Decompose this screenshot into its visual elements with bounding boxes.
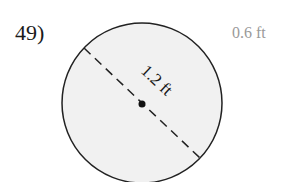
center-point bbox=[139, 101, 146, 108]
circle-diagram: 1.2 ft bbox=[0, 0, 281, 182]
